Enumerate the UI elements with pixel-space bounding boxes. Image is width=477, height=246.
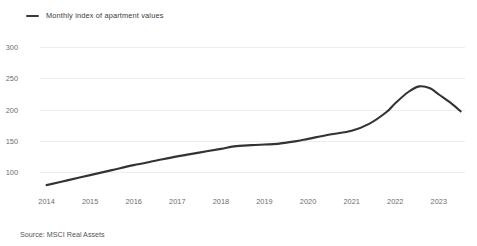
- y-tick-label-100: 100: [6, 168, 18, 177]
- gridline-150: [40, 141, 465, 142]
- x-tick-label-2016: 2016: [125, 197, 141, 206]
- x-tick-label-2014: 2014: [38, 197, 54, 206]
- gridline-100: [40, 172, 465, 173]
- gridline-250: [40, 78, 465, 79]
- gridline-300: [40, 47, 465, 48]
- chart-legend: Monthly index of apartment values: [26, 11, 164, 20]
- y-tick-label-250: 250: [6, 74, 18, 83]
- x-tick-label-2017: 2017: [169, 197, 185, 206]
- source-caption: Source: MSCI Real Assets: [20, 230, 105, 239]
- x-axis: 2014201520162017201820192020202120222023: [0, 197, 477, 211]
- x-tick-label-2018: 2018: [213, 197, 229, 206]
- legend-label: Monthly index of apartment values: [46, 11, 164, 20]
- x-tick-label-2019: 2019: [256, 197, 272, 206]
- y-tick-label-300: 300: [6, 43, 18, 52]
- x-tick-label-2021: 2021: [343, 197, 359, 206]
- chart-container: Monthly index of apartment values 300250…: [0, 0, 477, 246]
- y-tick-label-200: 200: [6, 105, 18, 114]
- x-tick-label-2020: 2020: [300, 197, 316, 206]
- gridline-200: [40, 110, 465, 111]
- y-tick-label-150: 150: [6, 136, 18, 145]
- x-tick-label-2023: 2023: [431, 197, 447, 206]
- x-tick-label-2015: 2015: [82, 197, 98, 206]
- x-tick-label-2022: 2022: [387, 197, 403, 206]
- plot-area: [40, 47, 465, 172]
